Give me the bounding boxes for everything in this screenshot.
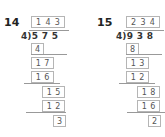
- step-box[interactable]: 1 6: [31, 71, 54, 83]
- step-box[interactable]: 1 2: [42, 100, 65, 112]
- problem-number: 14: [4, 16, 19, 29]
- dividend: 9 3 8: [125, 31, 155, 41]
- subtraction-line: [26, 112, 66, 113]
- dividend: 5 7 5: [30, 31, 60, 41]
- subtraction-line: [31, 54, 67, 55]
- remainder-box[interactable]: 2: [148, 115, 161, 127]
- subtraction-line: [127, 112, 165, 113]
- remainder-box[interactable]: 3: [53, 115, 66, 127]
- step-box[interactable]: 1 8: [137, 86, 160, 98]
- step-box[interactable]: 1 2: [126, 71, 149, 83]
- quotient-digit: 4: [148, 18, 157, 27]
- quotient-digit: 1: [34, 18, 43, 27]
- quotient-box[interactable]: 2 3 4: [126, 16, 160, 28]
- step-box[interactable]: 1 7: [31, 57, 54, 69]
- quotient-digit: 4: [43, 18, 52, 27]
- step-box[interactable]: 1 3: [126, 57, 149, 69]
- quotient-digit: 3: [53, 18, 62, 27]
- quotient-digit: 2: [129, 18, 138, 27]
- subtraction-line: [24, 83, 60, 84]
- problem-number: 15: [97, 16, 112, 29]
- step-box[interactable]: 1 5: [42, 86, 65, 98]
- quotient-digit: 3: [138, 18, 147, 27]
- subtraction-line: [126, 54, 162, 55]
- quotient-box[interactable]: 1 4 3: [31, 16, 65, 28]
- step-box[interactable]: 1 6: [137, 100, 160, 112]
- subtraction-line: [119, 83, 155, 84]
